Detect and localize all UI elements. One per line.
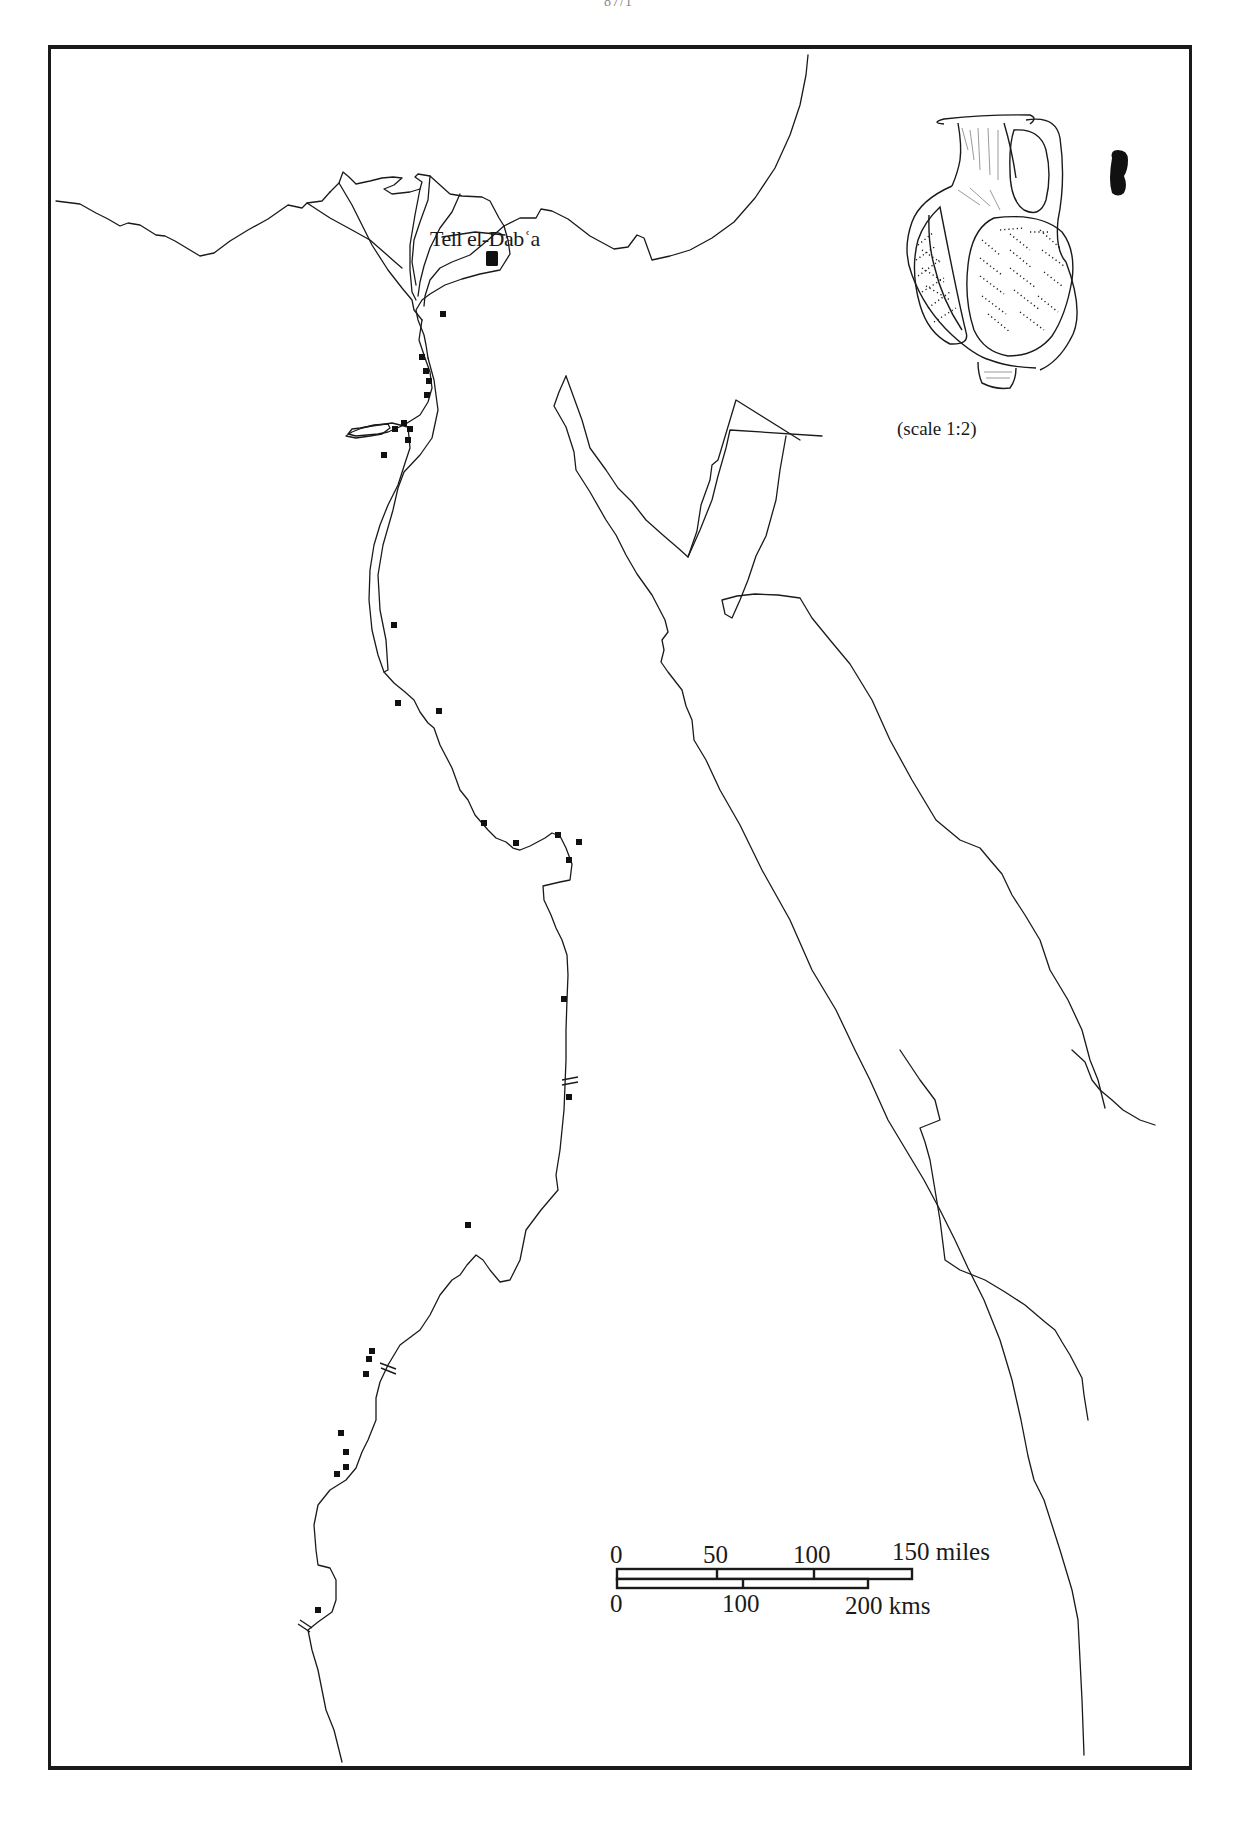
tell-el-daba-site-marker — [486, 251, 498, 266]
find-spot-marker — [381, 452, 387, 458]
find-spot-marker — [407, 426, 413, 432]
find-spot-marker — [424, 392, 430, 398]
find-spot-marker — [426, 378, 432, 384]
find-spot-marker — [465, 1222, 471, 1228]
jug-illustration — [907, 115, 1077, 389]
find-spot-marker — [513, 840, 519, 846]
find-spot-marker — [363, 1371, 369, 1377]
gulf-of-suez-east-coast — [566, 376, 800, 557]
scale-tick-label: 0 — [610, 1590, 623, 1617]
find-spot-marker — [566, 857, 572, 863]
cataract-markers — [298, 1077, 578, 1632]
red-sea-west-coast-south — [900, 1050, 1088, 1420]
artifact-scale-caption: (scale 1:2) — [897, 418, 977, 440]
find-spot-marker — [401, 420, 407, 426]
sinai-to-red-sea-coast — [722, 436, 1105, 1108]
find-spot-marker — [436, 708, 442, 714]
gulf-of-aqaba-coast — [688, 430, 822, 557]
find-spot-marker — [395, 700, 401, 706]
scale-tick-label: 50 — [703, 1541, 728, 1568]
site-label-tell-el-daba: Tell el-Dabʿa — [430, 226, 540, 252]
find-spot-marker — [334, 1471, 340, 1477]
mediterranean-coastline-east — [504, 55, 808, 260]
find-spot-marker — [555, 832, 561, 838]
find-spot-marker — [343, 1464, 349, 1470]
scale-tick-label: 100 — [722, 1590, 760, 1617]
find-spot-marker — [405, 437, 411, 443]
scale-bar — [617, 1569, 912, 1588]
find-spot-marker — [315, 1607, 321, 1613]
scale-tick-label: 0 — [610, 1541, 623, 1568]
scale-tick-label: 150 miles — [892, 1538, 990, 1565]
find-spot-marker — [392, 426, 398, 432]
find-spot-marker — [481, 820, 487, 826]
find-spot-marker — [391, 622, 397, 628]
scale-tick-label: 100 — [793, 1541, 831, 1568]
find-spot-marker — [440, 311, 446, 317]
mediterranean-coastline-west — [56, 192, 330, 256]
cataract-icon — [298, 1620, 312, 1632]
find-spot-markers — [315, 311, 582, 1613]
faiyum-lake — [346, 424, 390, 438]
find-spot-marker — [566, 1094, 572, 1100]
nile-river-west-bank — [348, 320, 432, 672]
find-spot-marker — [561, 996, 567, 1002]
nile-delta-outline — [307, 203, 402, 268]
find-spot-marker — [576, 839, 582, 845]
find-spot-marker — [423, 368, 429, 374]
find-spot-marker — [366, 1356, 372, 1362]
nile-river-east-bank — [308, 358, 572, 1762]
find-spot-marker — [419, 354, 425, 360]
egypt-map: 0 50 100 150 miles 0 100 200 kms — [0, 0, 1237, 1822]
scale-tick-label: 200 kms — [845, 1592, 930, 1619]
find-spot-marker — [343, 1449, 349, 1455]
find-spot-marker — [338, 1430, 344, 1436]
arabian-coast — [1072, 1050, 1155, 1125]
find-spot-marker — [369, 1348, 375, 1354]
handle-section-profile — [1110, 150, 1128, 196]
miles-scale-bar — [617, 1569, 912, 1579]
